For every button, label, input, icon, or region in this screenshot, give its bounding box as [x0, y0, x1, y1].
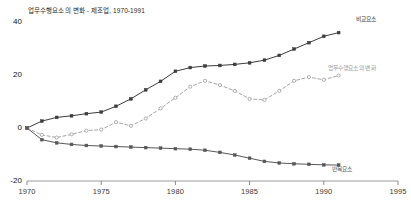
x-tick-label: 1970	[7, 187, 47, 196]
data-point	[263, 98, 266, 101]
x-tick-label: 1995	[378, 187, 411, 196]
data-point	[219, 151, 222, 154]
data-point	[189, 85, 192, 88]
data-point	[189, 148, 192, 151]
data-point	[159, 80, 162, 83]
x-tick-label: 1980	[155, 187, 195, 196]
data-point	[174, 96, 177, 99]
data-point	[114, 121, 117, 124]
data-point	[219, 64, 222, 67]
y-tick-label: -20	[0, 176, 22, 185]
data-point	[55, 141, 58, 144]
data-point	[204, 65, 207, 68]
data-point	[40, 133, 43, 136]
data-point	[293, 162, 296, 165]
data-point	[308, 41, 311, 44]
data-point	[189, 66, 192, 69]
x-tick-label: 1975	[81, 187, 121, 196]
data-point	[144, 117, 147, 120]
data-point	[70, 114, 73, 117]
data-point	[322, 163, 325, 166]
data-point	[159, 107, 162, 110]
data-point	[85, 144, 88, 147]
data-point	[263, 160, 266, 163]
data-point	[337, 74, 340, 77]
series-line-0	[27, 33, 339, 128]
x-axis-ticks	[27, 181, 398, 185]
data-point	[144, 146, 147, 149]
data-point	[233, 89, 236, 92]
data-point	[307, 76, 310, 79]
data-point	[85, 129, 88, 132]
x-tick-label: 1990	[304, 187, 344, 196]
data-point	[70, 143, 73, 146]
data-point	[203, 79, 206, 82]
series-label-0: 비교요소	[356, 15, 376, 23]
data-point	[100, 111, 103, 114]
data-point	[248, 97, 251, 100]
series-label-1: 업무수행요소의 변화	[328, 64, 376, 72]
data-point	[322, 35, 325, 38]
data-point	[278, 89, 281, 92]
data-point	[129, 124, 132, 127]
data-point	[293, 48, 296, 51]
data-point	[55, 116, 58, 119]
data-point	[129, 97, 132, 100]
data-point	[263, 59, 266, 62]
data-point	[115, 145, 118, 148]
data-point	[322, 78, 325, 81]
data-point	[204, 149, 207, 152]
y-tick-label: 20	[0, 70, 22, 79]
data-point	[278, 162, 281, 165]
x-tick-label: 1985	[230, 187, 270, 196]
data-point	[233, 63, 236, 66]
data-point	[129, 146, 132, 149]
data-point	[218, 83, 221, 86]
data-point	[55, 136, 58, 139]
data-point	[115, 105, 118, 108]
data-point	[26, 127, 29, 130]
data-point	[159, 147, 162, 150]
data-point	[174, 147, 177, 150]
data-point	[100, 145, 103, 148]
data-point	[174, 70, 177, 73]
data-point	[337, 31, 340, 34]
series-line-1	[27, 76, 339, 138]
data-point	[85, 112, 88, 115]
data-point	[278, 54, 281, 57]
data-series-layer	[25, 31, 340, 166]
data-point	[40, 138, 43, 141]
series-label-2: 반복요소	[332, 165, 352, 173]
y-tick-label: 40	[0, 17, 22, 26]
data-point	[40, 120, 43, 123]
data-point	[248, 61, 251, 64]
data-point	[100, 128, 103, 131]
data-point	[233, 154, 236, 157]
y-tick-label: 0	[0, 123, 22, 132]
data-point	[293, 79, 296, 82]
data-point	[70, 133, 73, 136]
data-point	[248, 157, 251, 160]
data-point	[308, 163, 311, 166]
data-point	[144, 88, 147, 91]
